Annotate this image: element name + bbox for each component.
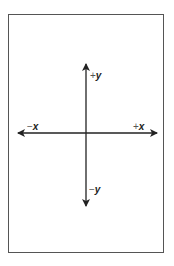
neg-x-label: −x <box>27 122 38 132</box>
pos-y-label: +y <box>90 71 101 81</box>
pos-x-label: +x <box>133 122 144 132</box>
neg-y-label: −y <box>89 185 100 195</box>
axes <box>0 0 174 266</box>
